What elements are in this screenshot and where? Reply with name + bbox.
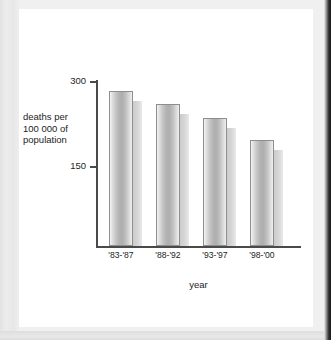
bar-shadow-1	[179, 114, 189, 246]
bar-0[interactable]	[109, 91, 133, 246]
y-tick-label-300: 300	[70, 75, 86, 86]
y-axis-title-line-1: deaths per	[23, 111, 89, 123]
page-area: 300 150 deaths per 100 000 of population…	[19, 9, 313, 327]
bar-chart: 300 150 deaths per 100 000 of population…	[19, 9, 313, 327]
bar-shadow-2	[226, 128, 236, 246]
x-tick-label-1: '88-'92	[142, 250, 194, 260]
x-axis-line	[96, 246, 301, 248]
bar-3[interactable]	[250, 140, 274, 247]
y-tick-150	[90, 166, 96, 168]
y-axis-title-line-2: 100 000 of	[23, 123, 89, 135]
bar-shadow-3	[273, 150, 283, 247]
y-tick-300	[90, 81, 96, 83]
bar-shadow-0	[132, 101, 142, 246]
scan-right-edge	[324, 0, 331, 340]
y-axis-title-line-3: population	[23, 134, 89, 146]
x-tick-label-2: '93-'97	[189, 250, 241, 260]
bar-2[interactable]	[203, 118, 227, 246]
y-axis-line	[96, 80, 98, 247]
x-axis-title: year	[96, 279, 301, 290]
y-axis-title: deaths per 100 000 of population	[23, 111, 89, 146]
y-tick-label-150: 150	[70, 160, 86, 171]
bar-1[interactable]	[156, 104, 180, 246]
x-tick-label-3: '98-'00	[236, 250, 288, 260]
x-tick-label-0: '83-'87	[95, 250, 147, 260]
scan-bottom-margin	[0, 331, 331, 340]
